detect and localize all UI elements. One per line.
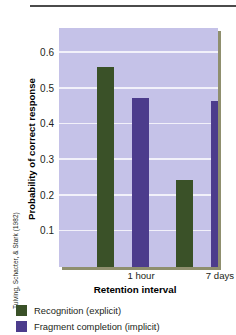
legend-item: Recognition (explicit) [16, 303, 236, 318]
y-tick-label: 0.6 [28, 47, 54, 59]
gridline [59, 51, 218, 53]
x-tick-label: 1 hour [106, 270, 176, 281]
bar [176, 180, 193, 267]
y-tick-label: 0.1 [28, 225, 54, 237]
y-tick-label: 0.4 [28, 118, 54, 130]
bar [211, 101, 218, 267]
top-rule-divider [30, 5, 236, 7]
gridline [59, 87, 218, 89]
y-tick-label: 0.5 [28, 83, 54, 95]
plot-area [59, 28, 218, 267]
y-tick-label: 0.3 [28, 154, 54, 166]
legend: Recognition (explicit)Fragment completio… [16, 303, 236, 335]
legend-label: Recognition (explicit) [34, 305, 121, 316]
bar [97, 67, 114, 267]
y-tick-label: 0.2 [28, 190, 54, 202]
figure: Tulving, Schacter, & Stark (1982) Probab… [0, 0, 236, 335]
bar [132, 98, 149, 267]
source-credit: Tulving, Schacter, & Stark (1982) [10, 189, 22, 309]
x-tick-label: 7 days [185, 270, 236, 281]
legend-item: Fragment completion (implicit) [16, 319, 236, 334]
legend-swatch [16, 305, 27, 316]
legend-swatch [16, 321, 27, 332]
x-axis-title: Retention interval [40, 284, 230, 295]
legend-label: Fragment completion (implicit) [34, 321, 160, 332]
